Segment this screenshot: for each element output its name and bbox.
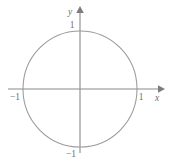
x-tick-label-positive-one: 1 <box>139 92 144 102</box>
y-tick-label-positive-one: 1 <box>70 20 75 30</box>
x-tick-label-negative-one: −1 <box>10 92 20 102</box>
x-axis-label: x <box>154 93 160 103</box>
y-axis-arrow-icon <box>76 6 84 13</box>
x-axis-arrow-icon <box>158 85 165 93</box>
unit-circle-figure: y x 1 −1 −1 1 <box>0 0 170 162</box>
y-tick-label-negative-one: −1 <box>66 149 76 159</box>
y-axis-label: y <box>67 7 73 17</box>
figure-container: y x 1 −1 −1 1 <box>0 0 170 162</box>
